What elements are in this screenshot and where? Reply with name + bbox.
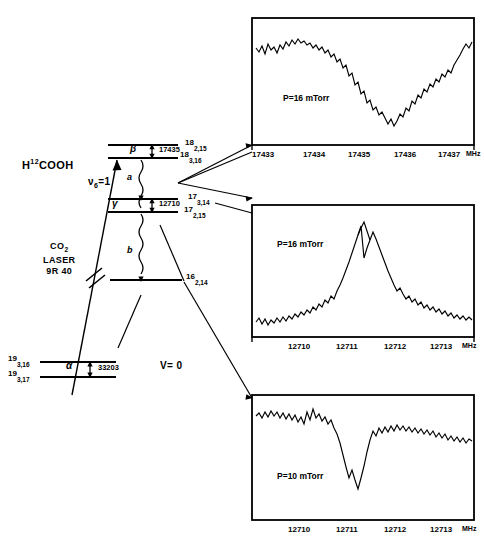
qn-19-3-16-j: 19 bbox=[8, 354, 17, 363]
qn-19-3-17-ka-kc: 3,17 bbox=[17, 376, 30, 383]
tick-bottom-3: 12713 bbox=[430, 525, 452, 534]
beta-frequency: 17435 bbox=[159, 145, 180, 154]
laser-line-9r40: 9R 40 bbox=[43, 266, 76, 277]
alpha-label: α bbox=[66, 360, 72, 371]
tick-top-4: 17437 bbox=[438, 150, 460, 159]
molecule-cooh: COOH bbox=[39, 159, 74, 171]
qn-18-3-16: 183,16 bbox=[180, 150, 202, 164]
qn-18-3-16-ka-kc: 3,16 bbox=[189, 157, 202, 164]
tick-top-2: 17435 bbox=[348, 150, 370, 159]
qn-19-3-17-j: 19 bbox=[8, 369, 17, 378]
decay-label-b: b bbox=[127, 245, 133, 255]
pressure-top: P=16 mTorr bbox=[283, 93, 329, 103]
qn-17-2-15-j: 17 bbox=[184, 205, 193, 214]
panel-top bbox=[252, 18, 474, 145]
vibrational-state-ground: V= 0 bbox=[160, 360, 182, 371]
connector-middle-b bbox=[215, 203, 252, 213]
qn-16-2-14: 162,14 bbox=[186, 272, 208, 286]
qn-17-2-15-ka-kc: 2,15 bbox=[193, 212, 206, 219]
spectroscopy-figure: H12COOH ν6=1 V= 0 CO2 LASER 9R 40 182,15… bbox=[0, 0, 484, 548]
qn-16-2-14-ka-kc: 2,14 bbox=[195, 279, 208, 286]
laser-pump-arrow bbox=[72, 160, 122, 395]
vibrational-state-upper: ν6=1 bbox=[88, 176, 110, 189]
laser-co2-sub: 2 bbox=[64, 246, 68, 253]
panel-connectors bbox=[118, 145, 252, 398]
connector-ground-up bbox=[118, 295, 141, 348]
laser-co2: CO bbox=[50, 241, 64, 251]
tick-middle-1: 12711 bbox=[336, 342, 358, 351]
gamma-label: γ bbox=[112, 198, 118, 209]
axis-unit-middle: MHz bbox=[462, 342, 476, 349]
tick-bottom-2: 12712 bbox=[384, 525, 406, 534]
tick-bottom-1: 12711 bbox=[336, 525, 358, 534]
tick-bottom-0: 12710 bbox=[288, 525, 310, 534]
wavy-b bbox=[139, 214, 143, 274]
qn-17-2-15: 172,15 bbox=[184, 205, 206, 219]
qn-18-2-15-j: 18 bbox=[185, 138, 194, 147]
axis-unit-top: MHz bbox=[466, 150, 480, 157]
v-value: = 0 bbox=[167, 360, 182, 371]
qn-19-3-16-ka-kc: 3,16 bbox=[17, 361, 30, 368]
pressure-bottom: P=10 mTorr bbox=[277, 471, 323, 481]
tick-middle-2: 12712 bbox=[384, 342, 406, 351]
axis-unit-bottom: MHz bbox=[462, 525, 476, 532]
beta-label: β bbox=[130, 143, 136, 154]
tick-top-1: 17434 bbox=[303, 150, 325, 159]
qn-19-3-16: 193,16 bbox=[8, 354, 30, 368]
alpha-frequency: 33203 bbox=[98, 363, 119, 372]
qn-18-3-16-j: 18 bbox=[180, 150, 189, 159]
nu-value: =1 bbox=[98, 176, 110, 187]
qn-16-2-14-j: 16 bbox=[186, 272, 195, 281]
tick-top-0: 17433 bbox=[252, 150, 274, 159]
laser-label: CO2 LASER 9R 40 bbox=[43, 241, 76, 277]
qn-17-3-14-j: 17 bbox=[188, 192, 197, 201]
tick-middle-0: 12710 bbox=[288, 342, 310, 351]
decay-label-a: a bbox=[127, 172, 132, 182]
laser-word: LASER bbox=[43, 255, 76, 266]
gamma-frequency: 12710 bbox=[159, 199, 180, 208]
connector-bottom bbox=[184, 282, 252, 398]
connector-level-b bbox=[160, 225, 184, 281]
pressure-middle: P=16 mTorr bbox=[277, 239, 323, 249]
panel-bottom bbox=[252, 395, 474, 520]
emission-wavy-arrows bbox=[139, 160, 143, 274]
molecule-label: H12COOH bbox=[22, 158, 74, 171]
tick-top-3: 17436 bbox=[394, 150, 416, 159]
panel-middle bbox=[252, 205, 474, 337]
molecule-isotope: 12 bbox=[30, 158, 39, 165]
qn-19-3-17: 193,17 bbox=[8, 369, 30, 383]
tick-middle-3: 12713 bbox=[430, 342, 452, 351]
